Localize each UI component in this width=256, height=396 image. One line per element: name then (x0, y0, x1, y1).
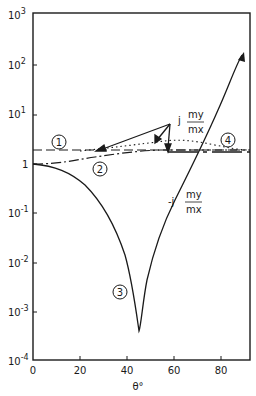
svg-text:j: j (177, 115, 181, 126)
svg-text:103: 103 (8, 7, 26, 21)
svg-text:80: 80 (215, 365, 228, 376)
svg-text:10-1: 10-1 (8, 205, 29, 219)
svg-text:mx: mx (188, 124, 204, 135)
svg-text:1: 1 (56, 137, 62, 148)
plot-frame (33, 13, 250, 360)
svg-text:my: my (186, 189, 202, 200)
svg-text:2: 2 (97, 164, 103, 175)
arrowhead-icon (165, 144, 171, 152)
svg-text:4: 4 (225, 135, 231, 146)
svg-text:0: 0 (30, 365, 36, 376)
arrowhead-icon (96, 145, 106, 151)
phasor-diagram (96, 124, 171, 152)
svg-text:10-2: 10-2 (8, 255, 29, 269)
curve-3 (33, 55, 242, 331)
y-tick-labels: 103 102 101 1 10-1 10-2 10-3 10-4 (8, 7, 29, 367)
label-j-my-mx: j my mx (177, 109, 204, 135)
svg-text:10-3: 10-3 (8, 304, 29, 318)
chart-svg: 103 102 101 1 10-1 10-2 10-3 10-4 0 20 4… (0, 0, 256, 396)
curve-label-4: 4 (221, 133, 235, 147)
curve-label-3: 3 (113, 285, 127, 299)
label-neg-j-my-mx: -j my mx (168, 189, 202, 215)
curve-label-2: 2 (93, 162, 107, 176)
svg-text:102: 102 (8, 57, 26, 71)
x-axis-label: θ° (132, 381, 143, 392)
svg-text:101: 101 (8, 106, 26, 120)
curve-label-1: 1 (52, 135, 66, 149)
svg-text:10-4: 10-4 (8, 353, 29, 367)
svg-text:40: 40 (121, 365, 134, 376)
svg-text:mx: mx (186, 204, 202, 215)
svg-text:1: 1 (22, 159, 28, 170)
x-tick-labels: 0 20 40 60 80 (30, 365, 228, 376)
svg-text:-j: -j (168, 196, 174, 207)
svg-text:60: 60 (168, 365, 181, 376)
svg-text:my: my (188, 109, 204, 120)
svg-text:3: 3 (117, 287, 123, 298)
svg-text:20: 20 (74, 365, 87, 376)
